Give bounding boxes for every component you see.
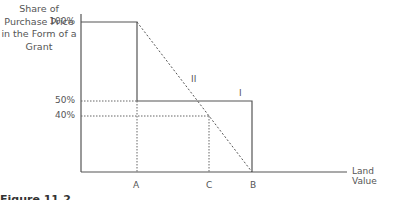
schedule-I-line — [81, 22, 252, 172]
x-tick-B: B — [250, 180, 256, 190]
schedule-II-line — [137, 22, 252, 172]
figure-caption: Figure 11.2 — [0, 193, 71, 200]
diagram-canvas — [0, 0, 401, 200]
x-tick-A: A — [133, 180, 139, 190]
x-axis-label: Land Value — [352, 166, 401, 186]
label-I: I — [239, 88, 242, 98]
caption-prefix: Figure 11.2 — [0, 193, 71, 200]
x-tick-C: C — [206, 180, 212, 190]
label-II: II — [191, 74, 196, 84]
